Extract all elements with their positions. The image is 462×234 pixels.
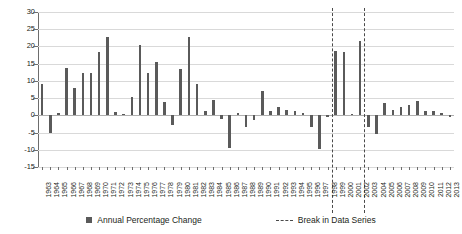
x-tick-label: 2002 xyxy=(363,182,370,198)
x-tick-mark xyxy=(83,167,84,170)
x-tick-label: 1969 xyxy=(94,182,101,198)
gridline xyxy=(38,12,454,13)
y-tick-mark xyxy=(33,64,38,65)
x-tick-label: 1963 xyxy=(45,182,52,198)
x-tick-label: 2000 xyxy=(347,182,354,198)
bar xyxy=(383,103,386,115)
x-tick-mark xyxy=(254,167,255,170)
x-tick-label: 1995 xyxy=(306,182,313,198)
legend-item-annual-percentage-change: Annual Percentage Change xyxy=(86,216,201,225)
bar xyxy=(351,114,354,115)
bar-chart: 302520151050-5-10-15 1963196419651966196… xyxy=(0,0,462,234)
x-tick-label: 2005 xyxy=(388,182,395,198)
bar xyxy=(318,115,321,149)
y-tick-mark xyxy=(33,81,38,82)
bar xyxy=(334,51,337,116)
x-tick-label: 1965 xyxy=(61,182,68,198)
x-tick-mark xyxy=(164,167,165,170)
x-tick-mark xyxy=(377,167,378,170)
x-tick-label: 1980 xyxy=(184,182,191,198)
y-tick-mark xyxy=(33,115,38,116)
x-tick-label: 1999 xyxy=(339,182,346,198)
bar xyxy=(269,111,272,115)
x-tick-label: 1966 xyxy=(70,182,77,198)
bar xyxy=(163,102,166,115)
x-tick-label: 1993 xyxy=(290,182,297,198)
x-tick-mark xyxy=(189,167,190,170)
x-tick-label: 1984 xyxy=(216,182,223,198)
x-tick-label: 2001 xyxy=(355,182,362,198)
bar xyxy=(326,115,329,116)
x-tick-label: 1967 xyxy=(78,182,85,198)
x-tick-label: 2006 xyxy=(396,182,403,198)
x-tick-mark xyxy=(230,167,231,170)
x-tick-mark xyxy=(156,167,157,170)
bar xyxy=(98,52,101,115)
x-tick-label: 2008 xyxy=(412,182,419,198)
x-tick-label: 1983 xyxy=(208,182,215,198)
x-tick-label: 1976 xyxy=(151,182,158,198)
x-tick-mark xyxy=(393,167,394,170)
y-tick-mark xyxy=(33,98,38,99)
x-tick-mark xyxy=(270,167,271,170)
x-tick-mark xyxy=(303,167,304,170)
x-tick-mark xyxy=(344,167,345,170)
x-tick-mark xyxy=(99,167,100,170)
x-tick-label: 2011 xyxy=(437,182,444,197)
x-tick-mark xyxy=(246,167,247,170)
x-tick-mark xyxy=(328,167,329,170)
legend-item-break-in-data-series: Break in Data Series xyxy=(276,216,376,225)
bar xyxy=(65,68,68,115)
x-tick-label: 1974 xyxy=(135,182,142,198)
bar xyxy=(122,114,125,116)
x-tick-label: 1989 xyxy=(257,182,264,198)
x-tick-mark xyxy=(319,167,320,170)
x-tick-label: 1997 xyxy=(322,182,329,198)
x-tick-mark xyxy=(434,167,435,170)
bar xyxy=(196,84,199,115)
plot-area: 302520151050-5-10-15 1963196419651966196… xyxy=(38,12,454,167)
x-tick-mark xyxy=(238,167,239,170)
legend-label: Break in Data Series xyxy=(298,216,376,225)
bar xyxy=(424,111,427,116)
bar xyxy=(400,107,403,115)
x-tick-label: 1968 xyxy=(86,182,93,198)
bar xyxy=(179,69,182,115)
x-tick-label: 1977 xyxy=(159,182,166,198)
x-tick-mark xyxy=(173,167,174,170)
bar xyxy=(245,115,248,127)
bar xyxy=(253,115,256,120)
bar-swatch-icon xyxy=(86,217,92,223)
x-tick-mark xyxy=(124,167,125,170)
x-tick-mark xyxy=(425,167,426,170)
y-tick-mark xyxy=(33,150,38,151)
x-tick-mark xyxy=(148,167,149,170)
gridline xyxy=(38,150,454,151)
x-tick-mark xyxy=(222,167,223,170)
gridline xyxy=(38,29,454,30)
bar xyxy=(359,41,362,116)
x-tick-mark xyxy=(360,167,361,170)
x-tick-label: 1987 xyxy=(241,182,248,198)
dashed-line-swatch-icon xyxy=(276,220,293,221)
bar xyxy=(106,37,109,115)
x-tick-label: 1971 xyxy=(110,182,117,198)
x-tick-label: 1982 xyxy=(200,182,207,198)
x-tick-label: 2003 xyxy=(371,182,378,198)
x-tick-mark xyxy=(42,167,43,170)
bar xyxy=(57,113,60,115)
y-tick-mark xyxy=(33,46,38,47)
x-tick-mark xyxy=(107,167,108,170)
x-tick-label: 1973 xyxy=(127,182,134,198)
x-tick-mark xyxy=(385,167,386,170)
x-tick-label: 1996 xyxy=(314,182,321,198)
bar xyxy=(147,73,150,115)
x-tick-mark xyxy=(75,167,76,170)
bar xyxy=(204,111,207,115)
bar xyxy=(375,115,378,134)
x-tick-label: 1998 xyxy=(331,182,338,198)
bar xyxy=(82,73,85,115)
bar xyxy=(432,111,435,115)
bar xyxy=(294,111,297,115)
x-tick-mark xyxy=(368,167,369,170)
